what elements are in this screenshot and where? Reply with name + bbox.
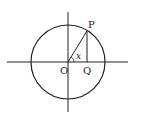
label-o: O — [60, 65, 68, 76]
label-angle-x: x — [76, 51, 81, 61]
label-q: Q — [83, 65, 91, 76]
label-p: P — [88, 19, 95, 30]
angle-arc — [71, 57, 74, 62]
unit-circle-diagram: P Q O x — [0, 0, 141, 116]
